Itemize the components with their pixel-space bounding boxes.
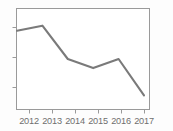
x-label-2017: 2017 [134,116,154,126]
chart-canvas: 2012 2013 2014 2015 2016 2017 [0,0,173,131]
line-chart-figure: 2012 2013 2014 2015 2016 2017 [0,0,173,131]
x-label-2015: 2015 [88,116,108,126]
x-label-2016: 2016 [111,116,131,126]
x-label-2014: 2014 [65,116,85,126]
plot-area-background [17,9,150,110]
x-label-2012: 2012 [19,116,39,126]
x-label-2013: 2013 [42,116,62,126]
